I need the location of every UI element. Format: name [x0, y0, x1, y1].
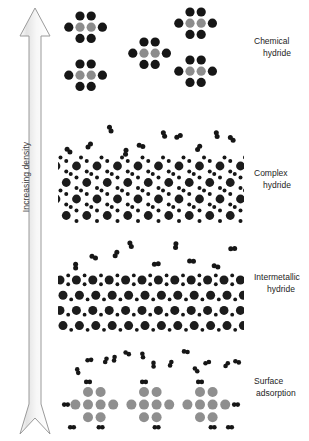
intermetallic-hydride-illustration [58, 236, 244, 340]
label-line-2: adsorption [254, 388, 309, 400]
label-line-1: Intermetallic [254, 272, 300, 282]
surface-adsorption-illustration [58, 344, 244, 439]
band-surface-adsorption: Surface adsorption [58, 344, 309, 439]
chemical-hydride-illustration [58, 6, 244, 114]
label-intermetallic-hydride: Intermetallic hydride [254, 272, 309, 295]
band-complex-hydride: Complex hydride [58, 120, 309, 232]
label-line-1: Chemical [254, 36, 289, 46]
density-axis: Increasing density [0, 0, 62, 441]
label-line-2: hydride [254, 180, 309, 192]
label-line-1: Complex [254, 168, 288, 178]
band-chemical-hydride: Chemical hydride [58, 6, 309, 114]
label-complex-hydride: Complex hydride [254, 168, 309, 191]
complex-hydride-illustration [58, 120, 244, 232]
hydrogen-storage-diagram: Increasing density Chemical hydride Comp… [0, 0, 309, 441]
label-line-1: Surface [254, 376, 283, 386]
band-intermetallic-hydride: Intermetallic hydride [58, 236, 309, 340]
label-line-2: hydride [254, 48, 309, 60]
label-line-2: hydride [254, 284, 309, 296]
label-surface-adsorption: Surface adsorption [254, 376, 309, 399]
label-chemical-hydride: Chemical hydride [254, 36, 309, 59]
axis-label: Increasing density [21, 97, 31, 257]
